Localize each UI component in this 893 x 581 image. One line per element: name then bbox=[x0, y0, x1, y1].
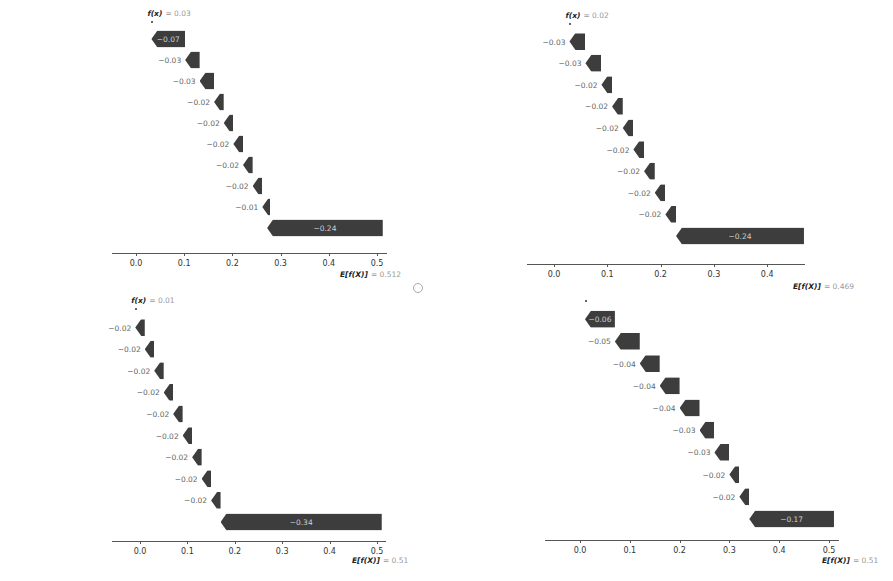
shap-bar bbox=[640, 355, 660, 372]
x-axis-tick-label: 0.3 bbox=[723, 546, 736, 555]
x-axis-tick-label: 0.2 bbox=[228, 547, 241, 556]
shap-bar bbox=[660, 377, 680, 394]
x-axis-tick bbox=[779, 540, 780, 543]
x-axis-tick-label: 0.4 bbox=[323, 547, 336, 556]
x-axis-tick-label: 0.4 bbox=[322, 259, 335, 268]
shap-bar bbox=[135, 319, 144, 336]
fx-label: f(x) bbox=[131, 296, 146, 305]
shap-value-label: −0.03 bbox=[687, 448, 710, 457]
shap-value-label: −0.03 bbox=[558, 59, 581, 68]
shap-value-label: −0.02 bbox=[108, 323, 131, 332]
shap-bar bbox=[585, 55, 601, 72]
shap-value-label: −0.02 bbox=[146, 410, 169, 419]
x-axis-tick bbox=[282, 541, 283, 544]
x-axis-tick bbox=[235, 541, 236, 544]
x-axis-tick-label: 0.1 bbox=[178, 259, 191, 268]
x-axis-tick-label: 0.4 bbox=[761, 270, 774, 279]
shap-bar bbox=[211, 492, 220, 509]
fx-label: f(x) bbox=[565, 11, 580, 20]
ex-label: E[f(X)] bbox=[352, 556, 380, 565]
shap-value-label: −0.17 bbox=[780, 515, 803, 524]
fx-annotation: f(x)= 0.01 bbox=[131, 296, 174, 305]
shap-value-label: −0.02 bbox=[187, 98, 210, 107]
shap-value-label: −0.05 bbox=[588, 337, 611, 346]
shap-value-label: −0.02 bbox=[137, 388, 160, 397]
shap-bar bbox=[183, 427, 192, 444]
shap-value-label: −0.02 bbox=[118, 345, 141, 354]
shap-bar bbox=[214, 94, 224, 111]
ex-value: = 0.469 bbox=[824, 282, 854, 291]
fx-annotation: f(x)= 0.03 bbox=[147, 9, 190, 18]
x-axis-tick bbox=[767, 264, 768, 267]
x-axis-tick bbox=[140, 541, 141, 544]
shap-bar bbox=[253, 178, 263, 195]
shap-bar bbox=[601, 76, 612, 93]
shap-bar bbox=[655, 184, 666, 201]
fx-marker bbox=[151, 21, 153, 23]
x-axis-tick-label: 0.4 bbox=[773, 546, 786, 555]
shap-bar bbox=[185, 52, 199, 69]
shap-value-label: −0.02 bbox=[156, 431, 179, 440]
shap-bar: −0.24 bbox=[267, 220, 383, 237]
shap-value-label: −0.02 bbox=[617, 167, 640, 176]
x-axis-tick bbox=[630, 540, 631, 543]
x-axis-tick bbox=[187, 541, 188, 544]
shap-value-label: −0.02 bbox=[226, 182, 249, 191]
x-axis-tick-label: 0.0 bbox=[134, 547, 147, 556]
shap-bar bbox=[164, 384, 173, 401]
shap-bar: −0.34 bbox=[221, 514, 382, 531]
shap-value-label: −0.34 bbox=[290, 518, 313, 527]
shap-bar bbox=[145, 341, 154, 358]
shap-value-label: −0.02 bbox=[127, 366, 150, 375]
expected-value-annotation: E[f(X)]= 0.512 bbox=[340, 270, 401, 279]
x-axis-tick-label: 0.3 bbox=[276, 547, 289, 556]
shap-bar bbox=[680, 400, 700, 417]
fx-value: = 0.02 bbox=[583, 11, 608, 20]
x-axis-line bbox=[527, 264, 804, 265]
x-axis-tick-label: 0.5 bbox=[371, 259, 384, 268]
shap-value-label: −0.01 bbox=[235, 203, 258, 212]
x-axis-tick bbox=[136, 253, 137, 256]
shap-bar bbox=[700, 422, 715, 439]
fx-marker bbox=[569, 23, 571, 25]
shap-value-label: −0.03 bbox=[673, 426, 696, 435]
ex-label: E[f(X)] bbox=[822, 556, 850, 565]
ex-value: = 0.512 bbox=[371, 270, 401, 279]
shap-bar: −0.06 bbox=[585, 311, 615, 328]
x-axis-tick-label: 0.0 bbox=[574, 546, 587, 555]
shap-bar bbox=[202, 470, 211, 487]
x-axis-tick bbox=[377, 541, 378, 544]
shap-value-label: −0.04 bbox=[653, 404, 676, 413]
x-axis-tick bbox=[607, 264, 608, 267]
x-axis-line bbox=[112, 253, 387, 254]
shap-value-label: −0.02 bbox=[702, 470, 725, 479]
x-axis-tick-label: 0.3 bbox=[708, 270, 721, 279]
shap-value-label: −0.24 bbox=[729, 232, 752, 241]
x-axis-tick-label: 0.0 bbox=[130, 259, 143, 268]
ex-value: = 0.51 bbox=[383, 556, 408, 565]
shap-bar: −0.17 bbox=[749, 511, 834, 528]
shap-value-label: −0.03 bbox=[158, 56, 181, 65]
fx-marker bbox=[585, 300, 587, 302]
shap-value-label: −0.02 bbox=[638, 210, 661, 219]
x-axis-tick bbox=[329, 253, 330, 256]
shap-value-label: −0.02 bbox=[585, 102, 608, 111]
shap-value-label: −0.02 bbox=[596, 124, 619, 133]
x-axis-tick-label: 0.2 bbox=[673, 546, 686, 555]
shap-value-label: −0.02 bbox=[712, 492, 735, 501]
x-axis-tick-label: 0.5 bbox=[371, 547, 384, 556]
x-axis-line bbox=[112, 541, 387, 542]
shap-value-label: −0.04 bbox=[633, 381, 656, 390]
shap-bar bbox=[192, 449, 201, 466]
x-axis-tick bbox=[714, 264, 715, 267]
shap-bar bbox=[644, 163, 655, 180]
shap-bar bbox=[714, 444, 729, 461]
shap-bar bbox=[200, 73, 214, 90]
shap-bar bbox=[173, 406, 182, 423]
shap-bar bbox=[739, 488, 749, 505]
shap-bar bbox=[154, 362, 163, 379]
shap-bar bbox=[612, 98, 623, 115]
expected-value-annotation: E[f(X)]= 0.51 bbox=[352, 556, 408, 565]
x-axis-tick bbox=[232, 253, 233, 256]
x-axis-tick bbox=[661, 264, 662, 267]
